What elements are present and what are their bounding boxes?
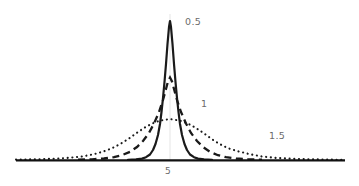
- curve-label-sigma-0-5: 0.5: [185, 17, 201, 27]
- x-axis-tick-label-mean: 5: [165, 167, 171, 176]
- normal-distribution-chart: 0.5 1 1.5 5: [0, 0, 359, 186]
- curve-label-sigma-1: 1: [201, 99, 207, 109]
- curve-label-sigma-1-5: 1.5: [269, 131, 285, 141]
- chart-plot-area: [0, 0, 359, 186]
